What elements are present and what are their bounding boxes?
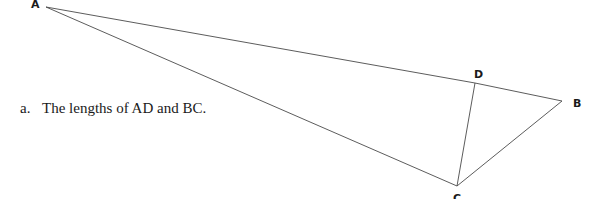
- question-number: a.: [20, 100, 42, 117]
- edge-dc: [457, 83, 475, 186]
- edge-db: [475, 83, 562, 101]
- question-item: a.The lengths of AD and BC.: [20, 100, 206, 117]
- edge-ac: [46, 7, 457, 186]
- vertex-label-a: A: [31, 0, 40, 11]
- edge-cb: [457, 101, 562, 186]
- vertex-label-d: D: [474, 68, 483, 81]
- vertex-label-b: B: [573, 97, 581, 110]
- question-text: The lengths of AD and BC.: [42, 100, 206, 116]
- edge-ad: [46, 7, 475, 83]
- vertex-label-c: C: [453, 192, 461, 199]
